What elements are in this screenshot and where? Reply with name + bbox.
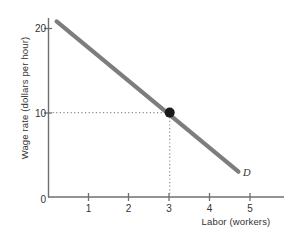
demand-curve-label: D [243,167,251,178]
x-tick-label-5: 5 [240,203,260,214]
x-axis-title: Labor (workers) [186,216,286,227]
chart-figure: 20 10 0 1 2 3 4 5 Wage rate (dollars per… [0,0,290,240]
x-tick-label-3: 3 [159,203,179,214]
y-axis-title: Wage rate (dollars per hour) [19,18,30,178]
equilibrium-point [165,108,175,118]
x-tick-label-4: 4 [200,203,220,214]
demand-curve-line [57,21,239,171]
y-tick-label-0: 0 [24,194,46,205]
x-tick-label-2: 2 [119,203,139,214]
x-tick-label-1: 1 [79,203,99,214]
